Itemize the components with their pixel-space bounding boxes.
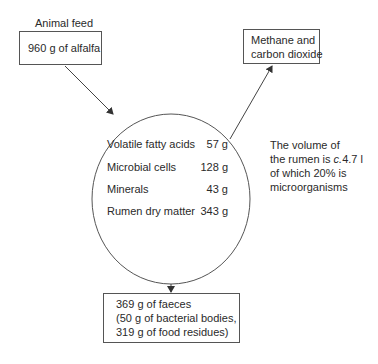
gases-line1: Methane and xyxy=(251,33,315,47)
note-line2: the rumen is c.4.7 l xyxy=(270,152,363,166)
feed-label: Animal feed xyxy=(35,16,93,30)
rumen-row-value: 343 g xyxy=(196,205,228,217)
faeces-line1: 369 g of faeces xyxy=(116,297,191,311)
arrow-rumen-to-gases xyxy=(230,66,272,139)
rumen-row: Microbial cells xyxy=(107,161,176,173)
note-line4: microorganisms xyxy=(270,180,348,194)
faeces-box: 369 g of faeces (50 g of bacterial bodie… xyxy=(103,293,240,343)
rumen-row: Rumen dry matter xyxy=(107,205,195,217)
faeces-line2: (50 g of bacterial bodies, xyxy=(116,311,236,325)
faeces-line3: 319 g of food residues) xyxy=(116,325,229,339)
feed-amount: 960 g of alfalfa xyxy=(28,41,100,55)
note-line3: of which 20% is xyxy=(270,166,346,180)
arrow-feed-to-rumen xyxy=(65,66,113,114)
note-line1: The volume of xyxy=(270,138,340,152)
rumen-row-name: Minerals xyxy=(107,183,149,195)
gases-box: Methane and carbon dioxide xyxy=(243,29,320,64)
rumen-row-name: Rumen dry matter xyxy=(107,205,195,217)
note-volume: 4.7 l xyxy=(342,153,363,165)
rumen-row: Volatile fatty acids xyxy=(107,138,195,150)
note-line2-prefix: the rumen is xyxy=(270,153,334,165)
rumen-row-value: 43 g xyxy=(196,183,228,195)
feed-box: 960 g of alfalfa xyxy=(19,31,102,65)
rumen-row-name: Microbial cells xyxy=(107,161,176,173)
rumen-row: Minerals xyxy=(107,183,149,195)
rumen-row-value: 57 g xyxy=(196,138,228,150)
gases-line2: carbon dioxide xyxy=(251,47,323,61)
rumen-row-value: 128 g xyxy=(196,161,228,173)
note-circa: c. xyxy=(334,153,343,165)
rumen-row-name: Volatile fatty acids xyxy=(107,138,195,150)
